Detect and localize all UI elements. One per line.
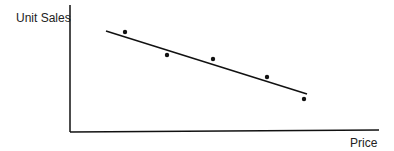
trend-line — [106, 31, 307, 94]
data-point — [165, 53, 169, 57]
x-axis — [70, 130, 379, 132]
data-point — [123, 30, 127, 34]
scatter-plot — [0, 0, 394, 151]
data-point — [265, 75, 269, 79]
data-point — [211, 57, 215, 61]
data-point — [302, 97, 306, 101]
